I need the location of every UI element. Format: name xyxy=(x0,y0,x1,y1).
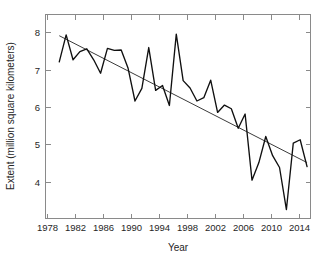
y-tick-label: 4 xyxy=(35,177,40,188)
x-tick-label: 2010 xyxy=(261,222,282,233)
line-chart: 8 7 6 5 4 xyxy=(0,0,329,267)
x-tick-label: 1982 xyxy=(65,222,86,233)
x-axis-title: Year xyxy=(168,242,189,253)
y-tick-label: 8 xyxy=(35,27,40,38)
y-tick-label: 7 xyxy=(35,65,40,76)
x-tick-label: 1994 xyxy=(149,222,170,233)
x-tick-label: 1990 xyxy=(121,222,142,233)
x-tick-label: 1986 xyxy=(93,222,114,233)
x-tick-label: 2006 xyxy=(233,222,254,233)
x-tick-label: 1978 xyxy=(37,222,58,233)
x-tick-label: 1998 xyxy=(177,222,198,233)
x-tick-label: 2002 xyxy=(205,222,226,233)
chart-figure: 8 7 6 5 4 xyxy=(0,0,329,267)
y-tick-label: 6 xyxy=(35,102,40,113)
y-tick-label: 5 xyxy=(35,139,40,150)
y-axis-title: Extent (million square kilometers) xyxy=(5,42,16,190)
x-tick-label: 2014 xyxy=(289,222,310,233)
